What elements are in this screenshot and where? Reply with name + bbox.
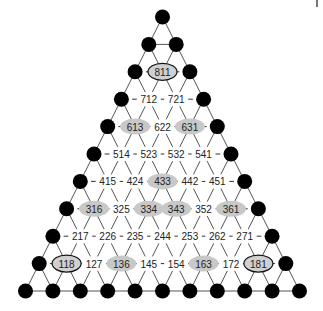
- lattice-labels: 8117127216136226315145235325414154244334…: [52, 63, 273, 272]
- lattice-label: 334: [134, 201, 164, 217]
- lattice-dot: [251, 201, 266, 216]
- label-text: 136: [113, 259, 130, 270]
- lattice-label: 316: [79, 201, 109, 217]
- label-text: 217: [72, 231, 89, 242]
- lattice-label: 514: [109, 147, 133, 162]
- lattice-dot: [265, 229, 280, 244]
- lattice-label: 154: [164, 256, 188, 271]
- label-text: 541: [195, 149, 212, 160]
- triangular-lattice-diagram: 8117127216136226315145235325414154244334…: [0, 0, 323, 311]
- corner-mark: [316, 0, 318, 7]
- label-text: 523: [140, 149, 157, 160]
- lattice-label: 352: [192, 201, 216, 216]
- lattice-label: 163: [189, 256, 219, 272]
- lattice-label: 172: [219, 256, 243, 271]
- label-text: 352: [195, 204, 212, 215]
- lattice-label: 415: [96, 174, 120, 189]
- label-text: 118: [59, 259, 75, 270]
- lattice-dot: [128, 284, 143, 299]
- label-text: 244: [154, 231, 171, 242]
- lattice-dot: [87, 147, 102, 162]
- label-text: 262: [209, 231, 226, 242]
- lattice-label: 613: [120, 119, 150, 135]
- lattice-dot: [18, 284, 33, 299]
- label-text: 172: [223, 259, 240, 270]
- lattice-label: 118: [52, 255, 81, 272]
- lattice-dot: [237, 174, 252, 189]
- label-text: 424: [127, 176, 144, 187]
- lattice-label: 271: [233, 229, 257, 244]
- lattice-label: 262: [205, 229, 229, 244]
- lattice-dot: [182, 284, 197, 299]
- lattice-label: 136: [106, 256, 136, 272]
- lattice-label: 721: [164, 92, 188, 107]
- lattice-dot: [141, 37, 156, 52]
- lattice-dot: [114, 92, 129, 107]
- lattice-dot: [196, 92, 211, 107]
- lattice-label: 541: [192, 147, 216, 162]
- label-text: 145: [140, 259, 157, 270]
- label-text: 712: [140, 94, 157, 105]
- label-text: 433: [154, 176, 171, 187]
- lattice-label: 523: [137, 147, 161, 162]
- lattice-label: 532: [164, 147, 188, 162]
- label-text: 271: [236, 231, 253, 242]
- lattice-dot: [224, 147, 239, 162]
- lattice-label: 145: [137, 256, 161, 271]
- lattice-dot: [45, 284, 60, 299]
- label-text: 622: [154, 122, 171, 133]
- label-text: 721: [168, 94, 185, 105]
- label-text: 253: [182, 231, 199, 242]
- label-text: 181: [250, 259, 267, 270]
- lattice-label: 217: [68, 229, 92, 244]
- lattice-label: 361: [216, 201, 246, 217]
- label-text: 226: [99, 231, 116, 242]
- lattice-dot: [182, 64, 197, 79]
- label-text: 442: [182, 176, 199, 187]
- label-text: 811: [155, 67, 171, 78]
- lattice-dot: [155, 284, 170, 299]
- label-text: 127: [86, 259, 103, 270]
- lattice-dot: [32, 256, 47, 271]
- label-text: 514: [113, 149, 130, 160]
- label-text: 631: [182, 122, 199, 133]
- label-text: 325: [113, 204, 130, 215]
- lattice-label: 712: [137, 92, 161, 107]
- lattice-label: 811: [148, 63, 177, 80]
- lattice-label: 244: [151, 229, 175, 244]
- lattice-dot: [128, 64, 143, 79]
- lattice-dot: [237, 284, 252, 299]
- label-text: 235: [127, 231, 144, 242]
- lattice-dot: [155, 10, 170, 25]
- label-text: 163: [195, 259, 212, 270]
- lattice-dot: [210, 284, 225, 299]
- lattice-dot: [265, 284, 280, 299]
- lattice-dot: [100, 119, 115, 134]
- lattice-dot: [292, 284, 307, 299]
- lattice-label: 325: [109, 201, 133, 216]
- lattice-label: 451: [205, 174, 229, 189]
- label-text: 361: [223, 204, 240, 215]
- lattice-dot: [278, 256, 293, 271]
- lattice-dot: [73, 284, 88, 299]
- lattice-dot: [210, 119, 225, 134]
- lattice-label: 424: [123, 174, 147, 189]
- label-text: 451: [209, 176, 226, 187]
- lattice-dot: [73, 174, 88, 189]
- lattice-dot: [100, 284, 115, 299]
- lattice-label: 253: [178, 229, 202, 244]
- lattice-dot: [59, 201, 74, 216]
- lattice-label: 235: [123, 229, 147, 244]
- lattice-label: 433: [148, 173, 178, 189]
- lattice-label: 631: [175, 119, 205, 135]
- lattice-label: 181: [244, 255, 273, 272]
- lattice-label: 442: [178, 174, 202, 189]
- label-text: 334: [140, 204, 157, 215]
- lattice-label: 127: [82, 256, 106, 271]
- label-text: 154: [168, 259, 185, 270]
- label-text: 316: [86, 204, 103, 215]
- lattice-label: 343: [161, 201, 191, 217]
- lattice-label: 622: [151, 119, 175, 134]
- label-text: 532: [168, 149, 185, 160]
- label-text: 613: [127, 122, 144, 133]
